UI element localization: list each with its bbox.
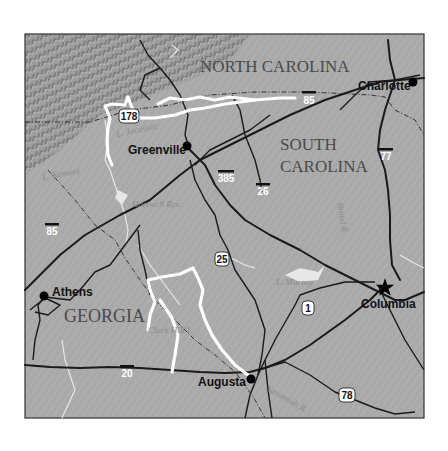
svg-text:77: 77 [380,151,392,162]
interstate-85-ne-marker: 85 [302,91,316,106]
water-label-murray: L. Murray [275,277,313,287]
interstate-77-marker: 77 [379,148,393,162]
state-label-south-carolina-2: CAROLINA [280,157,369,176]
svg-text:25: 25 [216,254,228,265]
svg-text:26: 26 [257,186,269,197]
us-78-shield: 78 [339,388,355,402]
city-label-greenville: Greenville [128,143,186,157]
city-dot-augusta [247,375,256,384]
interstate-385-marker: 385 [218,170,235,184]
city-label-columbia: Columbia [361,297,416,311]
state-label-north-carolina: NORTH CAROLINA [200,57,350,76]
city-label-charlotte: Charlotte [358,79,411,93]
svg-text:85: 85 [303,95,315,106]
svg-text:20: 20 [121,368,133,379]
state-label-south-carolina-1: SOUTH [280,135,337,154]
interstate-20-marker: 20 [120,365,134,379]
city-label-athens: Athens [52,285,93,299]
svg-text:385: 385 [218,173,235,184]
us-178-shield: 178 [119,109,139,123]
city-label-augusta: Augusta [198,375,246,389]
svg-text:1: 1 [305,303,311,314]
us-1-shield: 1 [302,301,314,315]
map: NORTH CAROLINA SOUTH CAROLINA GEORGIA L.… [0,0,448,451]
svg-text:178: 178 [121,111,138,122]
interstate-26-marker: 26 [256,183,270,197]
us-25-shield: 25 [215,252,229,266]
state-label-georgia: GEORGIA [64,306,145,326]
svg-text:85: 85 [46,226,58,237]
water-label-clark-hill: Clark Hill L. [148,325,194,335]
svg-text:78: 78 [341,390,353,401]
water-label-hartwell: Hartwell Res. [131,199,182,209]
city-dot-athens [40,292,49,301]
interstate-85-sw-marker: 85 [45,223,59,237]
